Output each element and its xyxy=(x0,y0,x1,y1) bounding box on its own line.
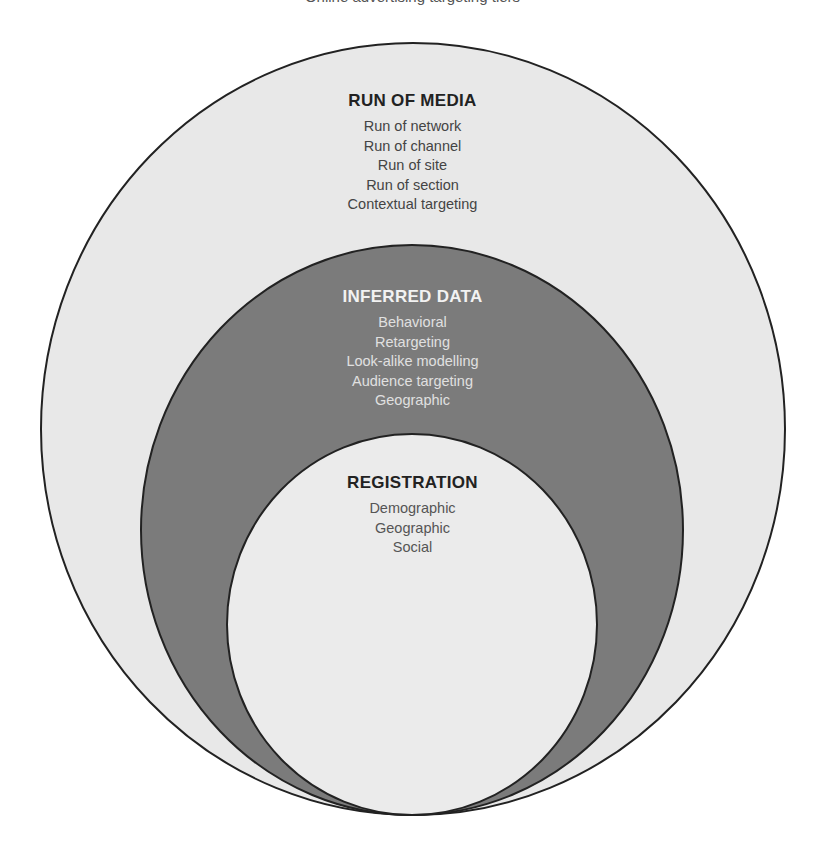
tier-inferred-data: INFERRED DATA Behavioral Retargeting Loo… xyxy=(0,287,825,411)
tier-item: Run of site xyxy=(0,156,825,176)
tier-item: Contextual targeting xyxy=(0,195,825,215)
tier-item: Demographic xyxy=(0,499,825,519)
tier-item: Social xyxy=(0,538,825,558)
tier-item: Look-alike modelling xyxy=(0,352,825,372)
tier-item: Run of channel xyxy=(0,137,825,157)
tier-registration: REGISTRATION Demographic Geographic Soci… xyxy=(0,473,825,558)
tier-item: Audience targeting xyxy=(0,372,825,392)
tier-title: INFERRED DATA xyxy=(0,287,825,307)
tier-item: Geographic xyxy=(0,519,825,539)
tier-item: Geographic xyxy=(0,391,825,411)
tier-item: Behavioral xyxy=(0,313,825,333)
tier-item: Retargeting xyxy=(0,333,825,353)
tier-item: Run of section xyxy=(0,176,825,196)
tier-item: Run of network xyxy=(0,117,825,137)
tier-run-of-media: RUN OF MEDIA Run of network Run of chann… xyxy=(0,91,825,215)
tier-title: RUN OF MEDIA xyxy=(0,91,825,111)
tier-title: REGISTRATION xyxy=(0,473,825,493)
